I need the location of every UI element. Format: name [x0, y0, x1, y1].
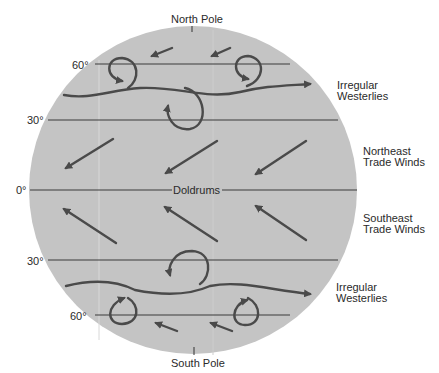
south-pole-label: South Pole: [171, 358, 225, 369]
south-westerlies-line2: Westerlies: [336, 293, 387, 304]
north-westerlies-label: Irregular Westerlies: [337, 80, 388, 102]
se-trades-label: Southeast Trade Winds: [363, 213, 425, 235]
lat-eq-label: 0°: [16, 185, 27, 196]
ne-trades-label: Northeast Trade Winds: [363, 146, 425, 168]
lat-n60-label: 60°: [72, 60, 89, 71]
lat-n30-label: 30°: [27, 115, 44, 126]
lat-s30-label: 30°: [27, 256, 44, 267]
doldrums-label: Doldrums: [173, 185, 220, 196]
north-westerlies-line2: Westerlies: [337, 91, 388, 102]
ne-trades-line2: Trade Winds: [363, 157, 425, 168]
se-trades-line2: Trade Winds: [363, 224, 425, 235]
north-pole-label: North Pole: [171, 14, 223, 25]
south-westerlies-label: Irregular Westerlies: [336, 282, 387, 304]
lat-s60-label: 60°: [70, 311, 87, 322]
